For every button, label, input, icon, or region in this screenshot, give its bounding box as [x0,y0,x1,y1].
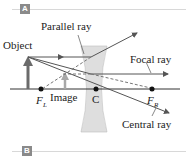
focal-ray-label: Focal ray [130,53,172,65]
diverging-lens-diagram: Parallel ray Object Focal ray Image C F … [0,0,186,159]
image-label: Image [50,91,78,103]
central-ray-leader [152,108,156,116]
parallel-ray-extension [42,57,91,89]
focal-right-subscript: R [153,101,159,109]
focal-point-left [39,87,44,92]
central-ray-label: Central ray [122,118,172,130]
focal-point-right [150,87,155,92]
parallel-ray-label: Parallel ray [41,20,92,32]
focal-ray-incident [28,57,91,74]
center-label: C [92,93,99,105]
focal-right-label: F [146,94,154,106]
parallel-ray-leader [78,35,84,54]
lens-center-point [94,87,99,92]
focal-left-subscript: L [42,101,47,109]
object-label: Object [3,39,32,51]
focal-left-label: F [35,94,43,106]
